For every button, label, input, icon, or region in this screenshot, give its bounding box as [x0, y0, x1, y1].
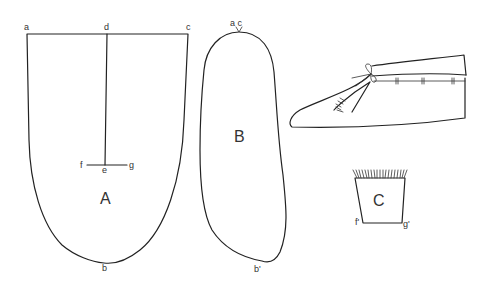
tongue-fringe	[336, 98, 345, 112]
piece-b-outline	[200, 32, 286, 262]
piece-c-label: C	[373, 192, 385, 209]
piece-b: a c b' B	[200, 18, 286, 274]
piece-b-label: B	[234, 128, 245, 145]
moccasin-body-outline	[290, 75, 465, 127]
point-b1-label: b'	[254, 264, 261, 274]
point-d-label: d	[104, 22, 109, 32]
moccasin-tongue	[334, 82, 370, 112]
moccasin-cuff-bottom	[372, 74, 466, 76]
piece-a-center-slit	[105, 34, 107, 165]
moccasin-pattern-diagram: a d c f e g b A a c b' B	[0, 0, 492, 286]
point-a-label: a	[24, 22, 29, 32]
piece-a: a d c f e g b A	[24, 22, 191, 273]
point-c-label: c	[186, 22, 191, 32]
piece-c: C f' g'	[353, 170, 410, 229]
moccasin-side-view	[290, 55, 466, 127]
piece-a-label: A	[100, 190, 111, 207]
point-g-label: g	[129, 160, 134, 170]
point-g1-label: g'	[403, 219, 410, 229]
piece-a-outline	[27, 34, 188, 263]
point-f-label: f	[80, 160, 83, 170]
bow-tie	[352, 64, 376, 86]
point-ac-label: a c	[230, 18, 243, 28]
piece-c-fringe	[353, 170, 407, 178]
moccasin-cuff-top	[372, 55, 466, 75]
point-e-label: e	[102, 165, 107, 175]
point-f1-label: f'	[355, 217, 360, 227]
point-b-label: b	[102, 263, 107, 273]
